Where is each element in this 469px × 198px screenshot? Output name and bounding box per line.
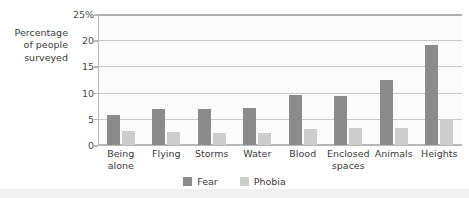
bar-group: [280, 14, 326, 145]
bar-group: [189, 14, 235, 145]
bar-phobia: [304, 129, 317, 145]
y-axis-tick-label: 15: [68, 61, 94, 72]
y-axis-tick-mark: [94, 93, 98, 95]
bar-phobia: [213, 133, 226, 145]
bar-group: [144, 14, 190, 145]
y-axis-tick-labels: 0510152025%: [64, 14, 94, 145]
y-axis-tick-label: 25%: [68, 9, 94, 20]
x-axis-category-label: Animals: [371, 148, 417, 160]
bar-group: [371, 14, 417, 145]
y-axis-tick-mark: [94, 40, 98, 42]
y-axis-tick-label: 0: [68, 140, 94, 151]
x-axis-category-label: Storms: [189, 148, 235, 160]
y-axis-tick-mark: [94, 119, 98, 121]
bar-group: [326, 14, 372, 145]
x-axis-category-label: Being alone: [98, 148, 144, 171]
bar-fear: [289, 95, 302, 145]
bar-group: [417, 14, 463, 145]
x-axis-category-label: Blood: [280, 148, 326, 160]
y-axis-title: Percentage of people surveyed: [0, 27, 68, 64]
bars-layer: [98, 14, 462, 145]
y-axis-tick-label: 10: [68, 87, 94, 98]
bar-phobia: [167, 132, 180, 145]
bar-fear: [107, 115, 120, 145]
legend-label-fear: Fear: [197, 176, 218, 187]
x-axis-category-label: Heights: [417, 148, 463, 160]
legend-swatch-phobia-icon: [240, 177, 249, 186]
y-axis-tick-label: 5: [68, 113, 94, 124]
bar-phobia: [395, 128, 408, 145]
x-axis-category-label: Water: [235, 148, 281, 160]
x-axis-category-label: Flying: [144, 148, 190, 160]
footer-band: [0, 189, 469, 198]
y-axis-tick-label: 20: [68, 35, 94, 46]
bar-phobia: [349, 128, 362, 145]
bar-group: [98, 14, 144, 145]
bar-fear: [152, 109, 165, 145]
bar-fear: [198, 109, 211, 145]
x-axis-category-labels: Being aloneFlyingStormsWaterBloodEnclose…: [98, 148, 462, 174]
bar-chart-figure: Percentage of people surveyed 0510152025…: [0, 0, 469, 198]
bar-fear: [334, 96, 347, 145]
y-axis-tick-mark: [94, 145, 98, 147]
legend-item-phobia: Phobia: [240, 176, 286, 187]
bar-fear: [380, 80, 393, 146]
legend-label-phobia: Phobia: [254, 176, 286, 187]
bar-fear: [243, 108, 256, 145]
chart-legend: Fear Phobia: [0, 176, 469, 187]
bar-phobia: [440, 119, 453, 145]
bar-fear: [425, 45, 438, 145]
bar-phobia: [122, 131, 135, 145]
legend-swatch-fear-icon: [183, 177, 192, 186]
y-axis-tick-mark: [94, 66, 98, 68]
bar-group: [235, 14, 281, 145]
bar-phobia: [258, 133, 271, 145]
x-axis-category-label: Enclosed spaces: [326, 148, 372, 171]
y-axis-tick-mark: [94, 14, 98, 16]
legend-item-fear: Fear: [183, 176, 218, 187]
